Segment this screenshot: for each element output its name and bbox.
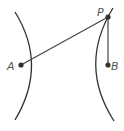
point-B — [105, 62, 110, 67]
segment-AP — [21, 17, 108, 65]
label-B: B — [111, 60, 119, 73]
point-P — [105, 14, 110, 19]
label-A: A — [6, 60, 15, 73]
label-P: P — [97, 6, 104, 19]
point-A — [18, 62, 23, 67]
hyperbola-diagram: A B P — [0, 0, 124, 131]
